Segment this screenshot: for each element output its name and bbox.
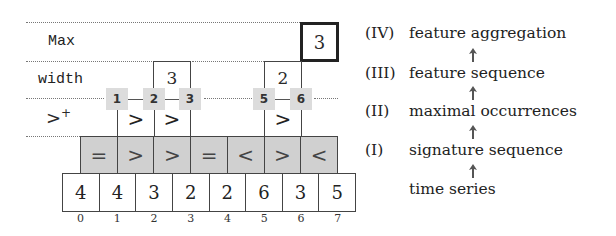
legend-label: maximal occurrences (409, 102, 577, 120)
signature-cell: < (300, 137, 337, 173)
row-separator-max-width-mid (192, 61, 264, 62)
row-label-gt-plus: >+ (46, 106, 71, 128)
legend-label: signature sequence (409, 141, 563, 159)
chip-dash-5-6 (275, 99, 290, 100)
width-value-1: 3 (157, 68, 187, 88)
max-value: 3 (314, 32, 325, 53)
max-value-box: 3 (300, 22, 339, 62)
row-separator-width-gt-a (26, 98, 104, 99)
index-label: 2 (136, 212, 173, 225)
index-label: 5 (246, 212, 283, 225)
chip-dash-2-3 (165, 99, 179, 100)
legend-numeral: (IV) (365, 24, 409, 42)
time-series-cell: 2 (209, 174, 246, 211)
gt-mark-2: > (162, 107, 182, 131)
occurrence-chip-6: 6 (290, 88, 312, 110)
row-separator-width-gt-c (314, 98, 338, 99)
legend-step-time-series: time series (365, 180, 496, 198)
gt-plus-superscript: + (61, 106, 71, 120)
arrow-up-icon (468, 164, 478, 178)
legend-numeral: (I) (365, 141, 409, 159)
arrow-up-icon (468, 86, 478, 100)
index-label: 6 (283, 212, 320, 225)
legend-numeral: (III) (365, 64, 409, 82)
index-label: 7 (319, 212, 356, 225)
gt-plus-symbol: > (46, 107, 61, 128)
time-series-cell: 3 (135, 174, 172, 211)
signature-cell: < (227, 137, 264, 173)
index-label: 0 (62, 212, 99, 225)
gt-mark-3: > (273, 107, 293, 131)
gt-mark-1: > (126, 107, 146, 131)
row-label-max: Max (48, 33, 75, 50)
time-series-cell: 3 (282, 174, 319, 211)
legend-numeral: (II) (365, 102, 409, 120)
time-series-cell: 2 (172, 174, 209, 211)
time-series-cell: 5 (318, 174, 355, 211)
time-series-cell: 6 (245, 174, 282, 211)
row-label-width: width (38, 71, 83, 88)
row-separator-width-gt-b (204, 98, 252, 99)
index-row: 0 1 2 3 4 5 6 7 (62, 212, 356, 225)
index-label: 4 (209, 212, 246, 225)
signature-cell: = (190, 137, 227, 173)
index-label: 3 (172, 212, 209, 225)
signature-cell: > (117, 137, 154, 173)
legend-label: feature sequence (409, 64, 545, 82)
time-series-cell: 4 (99, 174, 136, 211)
signature-cell: = (81, 137, 117, 173)
row-separator-max-width (26, 61, 152, 62)
legend-label: feature aggregation (409, 24, 566, 42)
legend-step-ii: (II)maximal occurrences (365, 102, 577, 120)
legend-label: time series (409, 180, 496, 198)
signature-cell: > (153, 137, 190, 173)
occurrence-chip-5: 5 (253, 88, 275, 110)
signature-sequence-row: = > > = < > < (80, 136, 338, 174)
legend-step-iv: (IV)feature aggregation (365, 24, 566, 42)
legend-step-iii: (III)feature sequence (365, 64, 545, 82)
time-series-row: 4 4 3 2 2 6 3 5 (62, 173, 356, 212)
occurrence-chip-1: 1 (106, 88, 128, 110)
arrow-up-icon (468, 125, 478, 139)
arrow-up-icon (468, 48, 478, 62)
signature-cell: > (264, 137, 301, 173)
width-value-2: 2 (268, 68, 298, 88)
row-separator-gt-signature (26, 136, 80, 137)
index-label: 1 (99, 212, 136, 225)
occurrence-chip-3: 3 (179, 88, 201, 110)
time-series-cell: 4 (63, 174, 99, 211)
legend-step-i: (I)signature sequence (365, 141, 563, 159)
chip-dash-1-2 (128, 99, 143, 100)
row-separator-top (26, 22, 300, 23)
